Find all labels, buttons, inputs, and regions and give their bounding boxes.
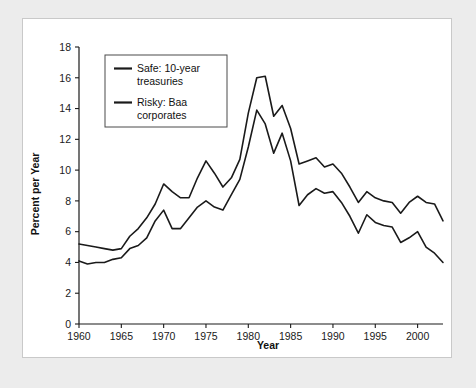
y-tick-label-16: 16 — [59, 72, 71, 84]
y-tick-label-18: 18 — [59, 41, 71, 53]
series-line-safe-treasuries — [79, 110, 443, 264]
y-tick-label-2: 2 — [65, 287, 71, 299]
y-axis-ticks: 024681012141618 — [59, 41, 79, 330]
x-tick-label-1970: 1970 — [152, 330, 176, 342]
x-tick-label-2000: 2000 — [406, 330, 430, 342]
interest-rate-line-chart: 024681012141618 196019651970197519801985… — [23, 19, 451, 357]
y-tick-label-14: 14 — [59, 102, 71, 114]
x-tick-label-1985: 1985 — [279, 330, 303, 342]
y-tick-label-8: 8 — [65, 195, 71, 207]
x-tick-label-1990: 1990 — [321, 330, 345, 342]
figure-card: 024681012141618 196019651970197519801985… — [22, 18, 452, 358]
chart-legend: Safe: 10-yeartreasuriesRisky: Baacorpora… — [105, 55, 227, 127]
x-axis-ticks: 196019651970197519801985199019952000 — [67, 324, 429, 342]
legend-label-1-line2: corporates — [137, 109, 187, 121]
x-axis-title: Year — [257, 339, 279, 351]
y-tick-label-6: 6 — [65, 225, 71, 237]
legend-label-0-line1: Safe: 10-year — [137, 62, 201, 74]
x-tick-label-1995: 1995 — [364, 330, 388, 342]
y-axis-title: Percent per Year — [29, 153, 41, 236]
y-tick-label-0: 0 — [65, 318, 71, 330]
y-tick-label-12: 12 — [59, 133, 71, 145]
x-tick-label-1960: 1960 — [67, 330, 91, 342]
x-tick-label-1975: 1975 — [194, 330, 218, 342]
x-tick-label-1965: 1965 — [110, 330, 134, 342]
y-tick-label-4: 4 — [65, 256, 71, 268]
screenshot-page: 024681012141618 196019651970197519801985… — [0, 0, 476, 388]
y-tick-label-10: 10 — [59, 164, 71, 176]
legend-label-1-line1: Risky: Baa — [137, 96, 187, 108]
legend-label-0-line2: treasuries — [137, 75, 183, 87]
